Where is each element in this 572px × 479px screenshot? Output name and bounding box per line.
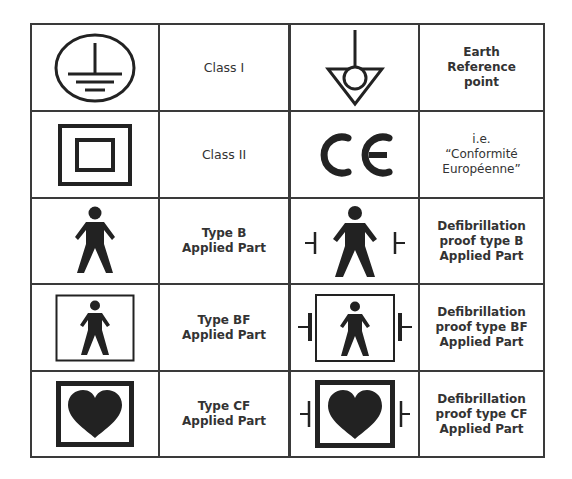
label-cell: Type CF Applied Part bbox=[160, 372, 288, 456]
defib-type-b-label: Defibrillation proof type B Applied Part bbox=[437, 219, 526, 264]
label-cell: Class II bbox=[160, 112, 288, 197]
symbol-cell-defib-b bbox=[291, 199, 418, 283]
symbol-cell-type-cf bbox=[32, 372, 158, 456]
label-cell: Class I bbox=[160, 25, 288, 110]
type-b-label: Type B Applied Part bbox=[182, 226, 266, 256]
ce-mark-icon bbox=[317, 132, 393, 178]
label-cell: Defibrillation proof type CF Applied Par… bbox=[420, 372, 543, 456]
earth-reference-point-icon bbox=[325, 28, 385, 108]
ce-label: i.e. “Conformité Européenne” bbox=[442, 132, 520, 177]
defib-type-bf-icon bbox=[297, 293, 413, 363]
type-b-person-icon bbox=[68, 206, 122, 276]
symbol-cell-class-ii bbox=[32, 112, 158, 197]
double-insulation-icon bbox=[58, 124, 132, 186]
symbol-cell-class-i bbox=[32, 25, 158, 110]
protective-earth-icon bbox=[53, 32, 137, 104]
label-cell: Type BF Applied Part bbox=[160, 285, 288, 370]
label-cell: Defibrillation proof type B Applied Part bbox=[420, 199, 543, 283]
symbol-cell-type-bf bbox=[32, 285, 158, 370]
defib-type-cf-icon bbox=[299, 379, 411, 449]
defib-type-b-icon bbox=[303, 204, 407, 278]
label-cell: Type B Applied Part bbox=[160, 199, 288, 283]
label-cell: i.e. “Conformité Européenne” bbox=[420, 112, 543, 197]
class-ii-label: Class II bbox=[202, 147, 246, 162]
class-i-label: Class I bbox=[204, 60, 245, 75]
symbol-cell-defib-bf bbox=[291, 285, 418, 370]
type-bf-label: Type BF Applied Part bbox=[182, 313, 266, 343]
symbol-cell-earth-reference bbox=[291, 25, 418, 110]
symbols-table: Class I Earth Reference point Class II i… bbox=[30, 23, 545, 458]
type-bf-person-boxed-icon bbox=[55, 294, 135, 362]
symbol-cell-defib-cf bbox=[291, 372, 418, 456]
defib-type-bf-label: Defibrillation proof type BF Applied Par… bbox=[435, 305, 527, 350]
type-cf-heart-boxed-icon bbox=[56, 381, 134, 447]
symbol-cell-type-b bbox=[32, 199, 158, 283]
label-cell: Earth Reference point bbox=[420, 25, 543, 110]
defib-type-cf-label: Defibrillation proof type CF Applied Par… bbox=[436, 392, 528, 437]
label-cell: Defibrillation proof type BF Applied Par… bbox=[420, 285, 543, 370]
type-cf-label: Type CF Applied Part bbox=[182, 399, 266, 429]
earth-reference-label: Earth Reference point bbox=[447, 45, 516, 90]
symbol-cell-ce bbox=[291, 112, 418, 197]
